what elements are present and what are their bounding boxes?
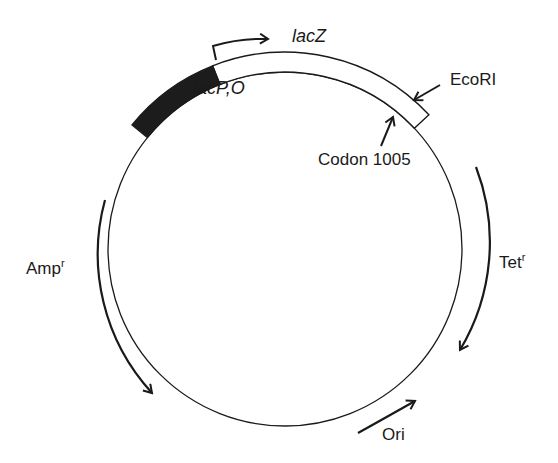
tet-label-text: Tet: [499, 253, 522, 272]
plasmid-backbone: [108, 72, 462, 426]
codon-pointer: [381, 117, 393, 146]
codon-label: Codon 1005: [318, 150, 411, 170]
lacz-gene-band: [213, 52, 429, 128]
amp-label-text: Amp: [26, 259, 61, 278]
plasmid-map-diagram: lacZ lacP,O EcoRI Codon 1005 Tetr Ampr O…: [0, 0, 558, 463]
ori-label: Ori: [382, 425, 405, 445]
lacpo-label: lacP,O: [193, 78, 245, 99]
tet-resistance-arrow: [460, 167, 490, 350]
amp-label: Ampr: [26, 257, 65, 279]
amp-label-superscript: r: [61, 257, 65, 269]
ecori-label: EcoRI: [450, 70, 496, 90]
lacpo-promoter-box: [132, 66, 220, 138]
amp-resistance-arrow: [98, 200, 152, 393]
lacz-label: lacZ: [292, 26, 326, 47]
ecori-pointer: [414, 85, 440, 100]
tet-label: Tetr: [499, 251, 525, 273]
tet-label-superscript: r: [522, 251, 526, 263]
